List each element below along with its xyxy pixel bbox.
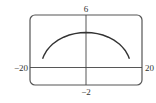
x-max-label: 20 [145,63,155,73]
graph-window: −20 20 6 −2 [0,0,156,103]
x-min-label: −20 [14,63,29,73]
y-max-label: 6 [84,4,89,14]
y-min-label: −2 [81,87,91,97]
